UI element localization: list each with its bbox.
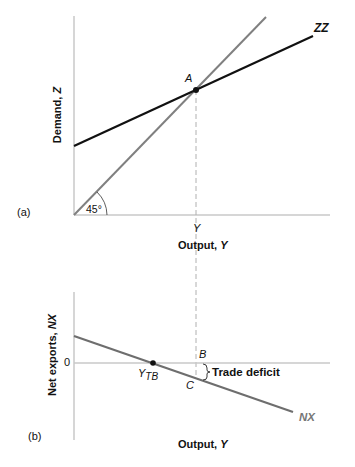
trade-deficit-label: Trade deficit bbox=[212, 366, 280, 378]
x-axis-b-label-text: Output, bbox=[178, 438, 220, 450]
trade-deficit-brace bbox=[203, 364, 210, 380]
ytb-point-marker bbox=[150, 360, 156, 366]
x-axis-label-var: Y bbox=[220, 239, 227, 251]
curve-nx-label: NX bbox=[299, 411, 315, 423]
panel-b-x-axis-label: Output, Y bbox=[178, 438, 228, 450]
panel-a-x-axis-label: Output, Y bbox=[178, 239, 228, 251]
diagram-canvas bbox=[0, 0, 355, 467]
output-tick-y-label: Y bbox=[193, 222, 200, 234]
x-axis-label-text: Output, bbox=[178, 239, 220, 251]
y-axis-label-var: Z bbox=[51, 87, 63, 94]
zero-tick-label: 0 bbox=[64, 356, 70, 368]
point-a-label: A bbox=[185, 72, 192, 84]
panel-a-tag: (a) bbox=[17, 206, 30, 218]
line-45-degree bbox=[74, 17, 266, 215]
panel-b-y-axis-label: Net exports, NX bbox=[46, 314, 58, 396]
panel-a-y-axis-label: Demand, Z bbox=[51, 87, 63, 143]
nx-axis-label-var: NX bbox=[46, 314, 58, 329]
nx-axis-label-text: Net exports, bbox=[46, 329, 58, 396]
panel-b-tag: (b) bbox=[28, 430, 41, 442]
point-a-marker bbox=[193, 87, 199, 93]
ytb-label-sub: TB bbox=[145, 371, 158, 382]
x-axis-b-label-var: Y bbox=[220, 438, 227, 450]
point-c-label: C bbox=[186, 379, 194, 391]
point-b-label: B bbox=[199, 348, 206, 360]
y-axis-label-text: Demand, bbox=[51, 94, 63, 144]
ytb-label: YTB bbox=[138, 367, 158, 379]
angle-label: 45° bbox=[86, 203, 102, 215]
curve-zz-label: ZZ bbox=[314, 21, 329, 35]
